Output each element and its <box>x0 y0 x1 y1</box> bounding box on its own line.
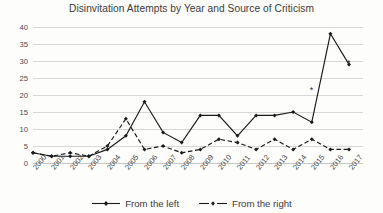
y-axis-tick-label: 5 <box>2 142 28 151</box>
chart-title: Disinvitation Attempts by Year and Sourc… <box>0 3 383 14</box>
data-point-marker <box>68 151 72 155</box>
series-line-from-the-right <box>33 119 349 156</box>
y-axis-tick-label: 35 <box>2 40 28 49</box>
y-axis-tick-label: 0 <box>2 159 28 168</box>
y-axis-tick-label: 20 <box>2 91 28 100</box>
data-point-marker <box>273 113 277 117</box>
annotation-asterisk: * <box>347 59 351 68</box>
series-lines <box>33 27 363 163</box>
data-point-marker <box>328 147 332 151</box>
y-axis-tick-label: 30 <box>2 57 28 66</box>
plot-area: ** <box>33 27 363 163</box>
data-point-marker <box>68 154 72 158</box>
data-point-marker <box>50 154 54 158</box>
y-axis-tick-label: 10 <box>2 125 28 134</box>
chart-legend: From the left From the right <box>0 193 383 213</box>
annotation-asterisk: * <box>310 86 314 95</box>
chart-figure: Disinvitation Attempts by Year and Sourc… <box>0 0 383 213</box>
y-axis-tick-label: 25 <box>2 74 28 83</box>
legend-item-from-the-left: From the left <box>91 198 179 209</box>
data-point-marker <box>161 144 165 148</box>
x-axis-labels: 2000200120022003200420052006200720082009… <box>33 165 363 193</box>
data-point-marker <box>180 151 184 155</box>
y-axis-tick-label: 15 <box>2 108 28 117</box>
y-axis-tick-label: 40 <box>2 23 28 32</box>
legend-label: From the right <box>232 198 292 209</box>
data-point-marker <box>236 141 240 145</box>
legend-swatch-solid <box>91 199 121 208</box>
legend-swatch-dashed <box>198 199 228 208</box>
legend-label: From the left <box>125 198 179 209</box>
legend-item-from-the-right: From the right <box>198 198 292 209</box>
data-point-marker <box>347 147 351 151</box>
series-line-from-the-left <box>33 34 349 156</box>
